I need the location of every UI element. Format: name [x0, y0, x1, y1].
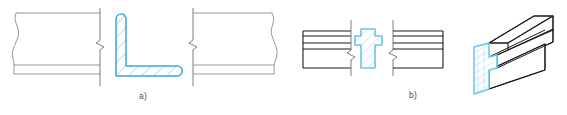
drawing-canvas: [0, 0, 567, 115]
rail-section: [355, 29, 382, 68]
right-bar-elevation: [193, 13, 277, 74]
left-break-zigzag-icon: [96, 40, 104, 50]
caption-part-b: b): [409, 90, 417, 100]
angle-section-outline: [116, 14, 182, 76]
caption-part-a: a): [139, 91, 147, 101]
part-b-group: [303, 16, 553, 94]
rail-section-outline: [355, 29, 382, 68]
right-break-b-zigzag-icon: [389, 50, 397, 60]
left-break-b-zigzag-icon: [347, 50, 355, 60]
right-break-zigzag-icon: [189, 40, 197, 50]
left-bar-elevation: [12, 13, 100, 74]
angle-section: [116, 14, 182, 76]
part-a-group: [12, 8, 277, 86]
rail-pictorial-view: [474, 16, 553, 94]
left-rail-elevation: [303, 31, 351, 68]
technical-drawing-figure: a) b): [0, 0, 567, 115]
right-rail-elevation: [393, 31, 443, 68]
